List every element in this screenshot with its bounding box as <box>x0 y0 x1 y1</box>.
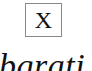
clipped-text-fragment: bgrati <box>0 49 85 71</box>
x-box: X <box>25 3 62 37</box>
x-box-label: X <box>35 8 52 32</box>
